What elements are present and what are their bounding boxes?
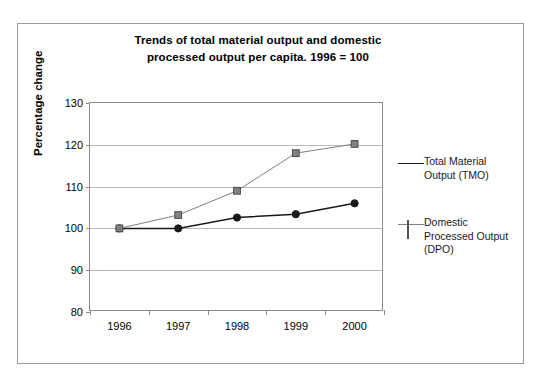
plot-area: 8090100110120130 19961997199819992000 [89, 102, 383, 311]
data-point-marker [116, 225, 123, 232]
legend-entry-dpo[interactable]: Domestic Processed Output (DPO) [398, 216, 518, 257]
x-tick-label: 1999 [284, 320, 308, 332]
legend-label-dpo-line-1: Domestic [424, 216, 468, 228]
x-tick-label: 1996 [107, 320, 131, 332]
legend-label-dpo-line-3: (DPO) [424, 243, 454, 255]
legend-entry-tmo[interactable]: Total Material Output (TMO) [398, 155, 518, 182]
chart-title-line-1: Trends of total material output and dome… [78, 32, 438, 49]
chart-title: Trends of total material output and dome… [78, 32, 438, 66]
y-tick-label: 130 [65, 97, 83, 109]
chart-legend: Total Material Output (TMO) Domestic Pro… [398, 155, 518, 291]
legend-label-tmo-line-1: Total Material [424, 155, 486, 167]
legend-label-dpo: Domestic Processed Output (DPO) [424, 216, 508, 257]
x-tick-label: 2000 [342, 320, 366, 332]
legend-label-tmo-line-2: Output (TMO) [424, 169, 489, 181]
x-tick-label: 1998 [225, 320, 249, 332]
data-point-marker [351, 141, 358, 148]
y-tick-label: 80 [71, 306, 83, 318]
data-point-marker [351, 200, 358, 207]
chart-title-line-2: processed output per capita. 1996 = 100 [78, 49, 438, 66]
data-point-marker [292, 211, 299, 218]
data-point-marker [233, 214, 240, 221]
series-plot [90, 103, 384, 312]
x-tick-label: 1997 [166, 320, 190, 332]
x-tick-mark [384, 310, 385, 315]
legend-label-dpo-line-2: Processed Output [424, 230, 508, 242]
data-point-marker [234, 187, 241, 194]
y-tick-label: 110 [65, 181, 83, 193]
y-axis-title: Percentage change [32, 51, 44, 156]
data-point-marker [175, 212, 182, 219]
y-tick-label: 100 [65, 222, 83, 234]
y-tick-label: 120 [65, 139, 83, 151]
data-point-marker [292, 150, 299, 157]
data-point-marker [175, 225, 182, 232]
legend-marker-circle-icon [398, 157, 424, 171]
legend-label-tmo: Total Material Output (TMO) [424, 155, 489, 182]
y-tick-label: 90 [71, 264, 83, 276]
legend-marker-square-icon [398, 218, 424, 232]
